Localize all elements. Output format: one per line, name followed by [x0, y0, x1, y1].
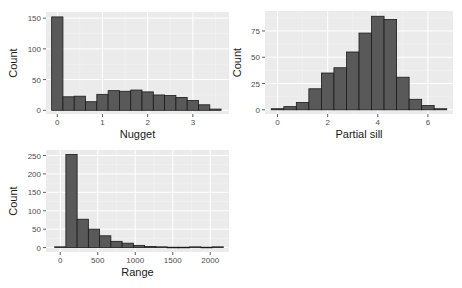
histogram-bar [156, 247, 167, 248]
y-tick-label: 0 [37, 244, 42, 253]
x-axis-title: Partial sill [335, 128, 382, 140]
x-tick-label: 0 [58, 256, 63, 265]
x-tick-label: 4 [376, 118, 381, 127]
histogram-bar [309, 89, 322, 110]
histogram-bar [210, 109, 221, 110]
y-tick-label: 200 [28, 170, 42, 179]
x-tick-label: 1000 [126, 256, 144, 265]
y-axis-title: Count [7, 186, 19, 215]
histogram-bar [359, 33, 372, 110]
histogram-bar [271, 109, 284, 110]
histogram-bar [74, 96, 85, 110]
histogram-bar [296, 102, 309, 109]
histogram-bar [397, 77, 410, 110]
histogram-bar [86, 102, 97, 111]
histogram-bar [178, 247, 189, 248]
histogram-bar [167, 247, 178, 248]
y-tick-label: 150 [28, 188, 42, 197]
histogram-bar [100, 236, 111, 248]
histogram-bar [212, 247, 223, 248]
histogram-bar [321, 73, 334, 110]
x-tick-label: 2 [145, 118, 150, 127]
x-tick-label: 1500 [164, 256, 182, 265]
y-tick-label: 250 [28, 152, 42, 161]
histogram-bar [422, 106, 435, 110]
histogram-bar [384, 19, 397, 109]
x-tick-label: 1 [100, 118, 105, 127]
histogram-bar [165, 96, 176, 111]
y-tick-label: 75 [251, 27, 260, 36]
x-axis-title: Nugget [120, 128, 155, 140]
y-tick-label: 50 [32, 76, 41, 85]
histogram-bar [284, 107, 297, 110]
histogram-bar [409, 99, 422, 110]
x-tick-label: 0 [55, 118, 60, 127]
histogram-bar [187, 100, 198, 110]
histogram-bar [145, 246, 156, 247]
histogram-bar [176, 97, 187, 110]
y-axis-title: Count [7, 48, 19, 77]
histogram-panel-nugget: 0501001500123NuggetCount [7, 12, 229, 140]
histogram-bar [66, 154, 77, 247]
histogram-panel-range: 0501001502002500500100015002000RangeCoun… [7, 150, 229, 278]
histogram-bar [52, 17, 63, 110]
histogram-bar [199, 105, 210, 111]
y-tick-label: 50 [251, 53, 260, 62]
histogram-figure: 0501001500123NuggetCount02550750246Parti… [0, 0, 462, 288]
x-tick-label: 3 [191, 118, 196, 127]
y-tick-label: 25 [251, 80, 260, 89]
histogram-bar [88, 229, 99, 247]
histogram-bar [334, 68, 347, 110]
histogram-bar [142, 92, 153, 110]
histogram-bar [190, 247, 201, 248]
histogram-bar [97, 94, 108, 110]
x-tick-label: 500 [91, 256, 105, 265]
x-tick-label: 0 [275, 118, 280, 127]
histogram-bar [434, 109, 447, 110]
histogram-bar [133, 245, 144, 247]
y-tick-label: 150 [28, 14, 42, 23]
histogram-bar [346, 52, 359, 110]
histogram-bar [153, 95, 164, 110]
histogram-bar [372, 16, 385, 110]
histogram-bar [77, 219, 88, 247]
histogram-bar [63, 97, 74, 111]
histogram-bar [201, 247, 212, 248]
histogram-bar [108, 91, 119, 111]
y-tick-label: 0 [256, 106, 261, 115]
histogram-bar [122, 243, 133, 247]
x-axis-title: Range [121, 266, 153, 278]
x-tick-label: 2 [325, 118, 330, 127]
histogram-bar [111, 241, 122, 247]
x-tick-label: 6 [426, 118, 431, 127]
histogram-bar [119, 91, 130, 110]
histogram-panel-partial-sill: 02550750246Partial sillCount [231, 11, 453, 140]
y-tick-label: 100 [28, 45, 42, 54]
y-tick-label: 0 [37, 106, 42, 115]
y-tick-label: 100 [28, 207, 42, 216]
y-tick-label: 50 [32, 225, 41, 234]
x-tick-label: 2000 [201, 256, 219, 265]
histogram-bar [55, 247, 66, 248]
histogram-bar [131, 90, 142, 110]
y-axis-title: Count [231, 48, 243, 77]
